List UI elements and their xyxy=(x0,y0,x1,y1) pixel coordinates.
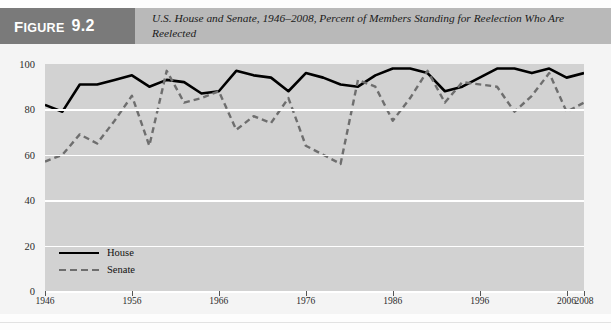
y-tick-label: 20 xyxy=(25,240,36,251)
x-tick-mark xyxy=(306,291,307,296)
figure-word: FIGURE xyxy=(14,18,65,35)
x-tick-mark xyxy=(45,291,46,296)
plot-region: House Senate xyxy=(45,64,584,291)
x-tick-label: 1986 xyxy=(383,296,402,306)
x-axis-labels: 19461956196619761986199620062008 xyxy=(0,296,611,314)
figure-title: U.S. House and Senate, 1946–2008, Percen… xyxy=(152,11,592,41)
y-axis-labels: 020406080100 xyxy=(0,64,40,291)
legend-label-senate: Senate xyxy=(107,264,135,275)
x-tick-label: 2006 xyxy=(557,296,576,306)
gridline xyxy=(45,109,584,111)
gridline xyxy=(45,155,584,157)
series-line-senate xyxy=(45,71,584,164)
chart-legend: House Senate xyxy=(59,244,135,278)
y-tick-label: 100 xyxy=(19,59,35,70)
figure-number: 9.2 xyxy=(72,17,95,35)
x-tick-label: 1946 xyxy=(36,296,55,306)
x-tick-label: 1996 xyxy=(470,296,489,306)
x-tick-label: 1966 xyxy=(209,296,228,306)
legend-label-house: House xyxy=(107,247,134,258)
x-tick-label: 2008 xyxy=(575,296,594,306)
y-tick-label: 0 xyxy=(30,286,35,297)
x-tick-mark xyxy=(132,291,133,296)
gridline xyxy=(45,200,584,202)
figure-page: FIGURE 9.2 U.S. House and Senate, 1946–2… xyxy=(0,0,611,330)
gridline xyxy=(45,246,584,248)
figure-number-badge: FIGURE 9.2 xyxy=(0,8,135,44)
legend-key-solid-icon xyxy=(59,248,99,258)
footer-divider xyxy=(0,322,611,323)
x-tick-mark xyxy=(567,291,568,296)
chart-area: 020406080100 House Senate 19461956196619… xyxy=(0,44,611,314)
x-tick-mark xyxy=(393,291,394,296)
x-tick-label: 1976 xyxy=(296,296,315,306)
y-tick-label: 40 xyxy=(25,195,36,206)
figure-header-band: FIGURE 9.2 U.S. House and Senate, 1946–2… xyxy=(0,8,611,44)
gridline xyxy=(45,291,584,293)
y-tick-label: 80 xyxy=(25,104,36,115)
legend-item-senate: Senate xyxy=(59,261,135,278)
y-tick-label: 60 xyxy=(25,149,36,160)
x-tick-label: 1956 xyxy=(122,296,141,306)
x-tick-mark xyxy=(480,291,481,296)
legend-key-dashed-icon xyxy=(59,265,99,275)
x-tick-mark xyxy=(219,291,220,296)
x-tick-mark xyxy=(584,291,585,296)
